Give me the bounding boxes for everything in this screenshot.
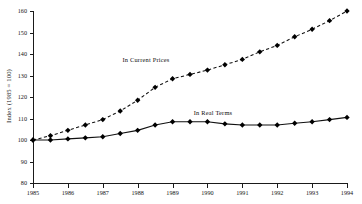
data-point-marker (292, 121, 297, 126)
chart-series-group (30, 8, 349, 142)
data-point-marker (309, 27, 314, 32)
data-point-marker (344, 8, 349, 13)
annotation-current-prices: In Current Prices (122, 56, 169, 63)
x-tick-label-1989: 1989 (166, 189, 178, 196)
data-point-marker (275, 122, 280, 127)
data-point-marker (100, 134, 105, 139)
chart-container: 8090100110120130140150160 19851986198719… (0, 0, 362, 204)
data-point-marker (83, 135, 88, 140)
data-point-marker (257, 49, 262, 54)
data-point-marker (170, 76, 175, 81)
data-point-marker (152, 122, 157, 127)
data-point-marker (135, 98, 140, 103)
y-tick-label-120: 120 (18, 93, 27, 100)
y-tick-label-160: 160 (18, 7, 27, 14)
data-point-marker (240, 57, 245, 62)
data-point-marker (205, 119, 210, 124)
data-point-marker (187, 119, 192, 124)
data-point-marker (65, 128, 70, 133)
data-point-marker (327, 117, 332, 122)
data-point-marker (222, 121, 227, 126)
data-point-marker (30, 137, 35, 142)
x-tick-label-1990: 1990 (201, 189, 213, 196)
y-tick-label-140: 140 (18, 50, 27, 57)
y-tick-label-110: 110 (18, 115, 27, 122)
y-tick-label-90: 90 (21, 158, 27, 165)
x-tick-label-1991: 1991 (236, 189, 248, 196)
x-tick-label-1988: 1988 (131, 189, 143, 196)
data-point-marker (275, 43, 280, 48)
data-point-marker (118, 108, 123, 113)
y-axis-tick-labels: 8090100110120130140150160 (18, 7, 27, 186)
y-tick-label-80: 80 (21, 179, 27, 186)
x-tick-label-1985: 1985 (27, 189, 39, 196)
data-point-marker (135, 128, 140, 133)
annotation-real-terms: In Real Terms (194, 109, 233, 116)
data-point-marker (327, 18, 332, 23)
y-tick-label-100: 100 (18, 136, 27, 143)
x-tick-label-1992: 1992 (271, 189, 283, 196)
x-tick-label-1987: 1987 (97, 189, 109, 196)
y-axis-label: Index (1985 = 100) (5, 69, 13, 123)
x-axis-tick-labels: 1985198619871988198919901991199219931994 (27, 189, 353, 196)
chart-axes (30, 11, 348, 188)
x-tick-label-1986: 1986 (62, 189, 74, 196)
data-point-marker (205, 67, 210, 72)
x-tick-label-1994: 1994 (341, 189, 353, 196)
data-point-marker (100, 117, 105, 122)
line-chart: 8090100110120130140150160 19851986198719… (0, 0, 362, 204)
data-point-marker (65, 136, 70, 141)
y-tick-label-150: 150 (18, 29, 27, 36)
data-point-marker (309, 119, 314, 124)
x-tick-label-1993: 1993 (306, 189, 318, 196)
data-point-marker (344, 115, 349, 120)
data-point-marker (222, 62, 227, 67)
data-point-marker (170, 119, 175, 124)
data-point-marker (240, 122, 245, 127)
data-point-marker (187, 72, 192, 77)
data-point-marker (83, 122, 88, 127)
data-point-marker (257, 122, 262, 127)
y-tick-label-130: 130 (18, 72, 27, 79)
series-annotations: In Current PricesIn Real Terms (122, 56, 232, 116)
data-point-marker (292, 34, 297, 39)
data-point-marker (118, 131, 123, 136)
data-point-marker (48, 137, 53, 142)
